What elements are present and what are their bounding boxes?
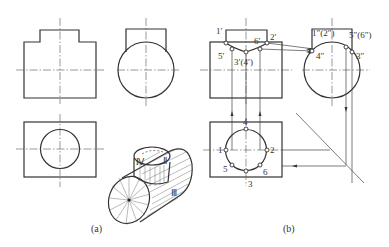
label-6: 6	[263, 167, 268, 177]
label-5-6-dprime: 5″(6″)	[349, 30, 372, 40]
caption-b: (b)	[283, 223, 295, 235]
front-view-a	[16, 18, 104, 104]
engineering-drawing: Ⅳ Ⅱ Ⅲ (a) 1′	[0, 0, 389, 247]
iso-label-iv: Ⅳ	[136, 157, 145, 167]
label-1-2-dprime: 1″(2″)	[312, 28, 335, 38]
caption-a: (a)	[91, 223, 102, 235]
label-2: 2	[270, 145, 275, 155]
label-4-dprime: 4″	[316, 51, 325, 61]
small-cylinder-hatching	[140, 164, 164, 186]
label-3-4-prime: 3′(4′)	[234, 57, 253, 67]
front-view-b: 1′ 2′ 5′ 6′ 3′(4′)	[200, 18, 314, 150]
label-3: 3	[248, 179, 253, 189]
label-4: 4	[243, 117, 248, 127]
label-6-prime: 6′	[254, 36, 261, 46]
top-view-a	[16, 114, 104, 187]
iso-label-iii: Ⅲ	[171, 188, 177, 198]
side-view-b: 1″(2″) 5″(6″) 4″ 3″	[302, 18, 372, 183]
iso-label-ii: Ⅱ	[163, 156, 167, 166]
label-1-prime: 1′	[216, 26, 223, 36]
label-1: 1	[218, 145, 223, 155]
top-view-b: 4 1 2 5 6 3	[203, 117, 282, 189]
label-2-prime: 2′	[270, 32, 277, 42]
label-3-dprime: 3″	[356, 51, 365, 61]
label-5-prime: 5′	[218, 51, 225, 61]
label-5: 5	[223, 164, 228, 174]
panel-b: 1′ 2′ 5′ 6′ 3′(4′) 1″(2″) 5″(6″) 4″ 3″	[200, 18, 372, 235]
side-view-a	[117, 18, 181, 106]
isometric-view: Ⅳ Ⅱ Ⅲ	[102, 147, 192, 229]
miter-line	[296, 113, 364, 183]
panel-a: Ⅳ Ⅱ Ⅲ (a)	[16, 18, 192, 235]
